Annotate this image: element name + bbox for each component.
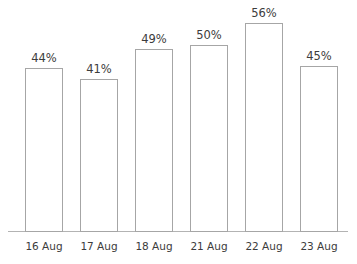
bar-value-label: 50% bbox=[196, 29, 222, 41]
x-axis-tick-label: 22 Aug bbox=[245, 240, 282, 252]
bar-rect[interactable] bbox=[190, 45, 228, 232]
x-axis-tick-label: 23 Aug bbox=[300, 240, 337, 252]
x-axis-tick-label: 17 Aug bbox=[80, 240, 117, 252]
bar-value-label: 45% bbox=[306, 50, 332, 62]
bar-rect[interactable] bbox=[300, 66, 338, 232]
bar-value-label: 44% bbox=[31, 52, 57, 64]
plot-area: 44% 16 Aug 41% 17 Aug 49% 18 Aug 50% 21 … bbox=[0, 0, 357, 264]
bar-value-label: 41% bbox=[86, 63, 112, 75]
x-axis-tick-label: 21 Aug bbox=[190, 240, 227, 252]
bar-rect[interactable] bbox=[25, 68, 63, 232]
bar-chart: 44% 16 Aug 41% 17 Aug 49% 18 Aug 50% 21 … bbox=[0, 0, 357, 264]
bar-value-label: 56% bbox=[251, 7, 277, 19]
x-axis-tick-label: 18 Aug bbox=[135, 240, 172, 252]
x-axis-tick-label: 16 Aug bbox=[25, 240, 62, 252]
bar-rect[interactable] bbox=[80, 79, 118, 232]
bar-value-label: 49% bbox=[141, 33, 167, 45]
bar-rect[interactable] bbox=[245, 23, 283, 232]
bar-rect[interactable] bbox=[135, 49, 173, 232]
